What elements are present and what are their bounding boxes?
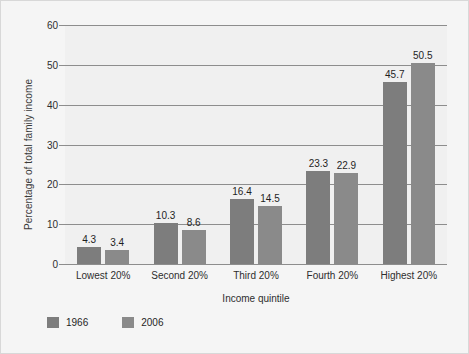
- y-axis-tick-label: 0: [52, 259, 58, 270]
- bar[interactable]: 10.3: [154, 223, 178, 264]
- bar-series-container: 4.33.4Lowest 20%10.38.6Second 20%16.414.…: [65, 25, 447, 264]
- legend-item-series-2[interactable]: 2006: [122, 317, 163, 328]
- y-axis-tick-label: 30: [47, 139, 58, 150]
- bar-value-label: 45.7: [385, 69, 404, 80]
- y-axis-tick-label: 50: [47, 59, 58, 70]
- bar-value-label: 8.6: [187, 217, 201, 228]
- x-axis-category-label: Lowest 20%: [66, 270, 140, 281]
- bar[interactable]: 50.5: [411, 63, 435, 264]
- x-axis-category-label: Fourth 20%: [295, 270, 369, 281]
- bar-value-label: 4.3: [82, 234, 96, 245]
- bar-value-label: 10.3: [156, 210, 175, 221]
- bar-value-label: 50.5: [413, 50, 432, 61]
- bar[interactable]: 23.3: [306, 171, 330, 264]
- chart-legend: 1966 2006: [47, 317, 198, 328]
- y-axis-title: Percentage of total family income: [23, 60, 34, 250]
- bar-group: 23.322.9Fourth 20%: [295, 25, 369, 264]
- chart-figure: Percentage of total family income 010203…: [0, 0, 469, 354]
- bar[interactable]: 4.3: [77, 247, 101, 264]
- x-axis-title: Income quintile: [65, 293, 447, 304]
- bar[interactable]: 22.9: [334, 173, 358, 264]
- legend-swatch-icon: [122, 317, 134, 328]
- bar[interactable]: 14.5: [258, 206, 282, 264]
- legend-label: 2006: [141, 317, 163, 328]
- bar-value-label: 14.5: [260, 193, 279, 204]
- bar-value-label: 3.4: [110, 237, 124, 248]
- bar[interactable]: 16.4: [230, 199, 254, 264]
- y-axis-tick-label: 10: [47, 219, 58, 230]
- legend-swatch-icon: [47, 317, 59, 328]
- bar-group: 45.750.5Highest 20%: [372, 25, 446, 264]
- gridline: [65, 264, 447, 265]
- bar-group: 16.414.5Third 20%: [219, 25, 293, 264]
- bar-group: 10.38.6Second 20%: [143, 25, 217, 264]
- bar-value-label: 16.4: [232, 186, 251, 197]
- legend-label: 1966: [66, 317, 88, 328]
- bar-value-label: 22.9: [337, 160, 356, 171]
- bar[interactable]: 45.7: [383, 82, 407, 264]
- bar[interactable]: 8.6: [182, 230, 206, 264]
- x-axis-category-label: Highest 20%: [372, 270, 446, 281]
- bar[interactable]: 3.4: [105, 250, 129, 264]
- bar-value-label: 23.3: [309, 158, 328, 169]
- y-axis-tick: [59, 264, 65, 265]
- y-axis-tick-label: 60: [47, 20, 58, 31]
- x-axis-category-label: Second 20%: [143, 270, 217, 281]
- y-axis-tick-label: 40: [47, 99, 58, 110]
- legend-item-series-1[interactable]: 1966: [47, 317, 88, 328]
- x-axis-category-label: Third 20%: [219, 270, 293, 281]
- plot-area: 0102030405060 4.33.4Lowest 20%10.38.6Sec…: [65, 25, 447, 264]
- y-axis-tick-label: 20: [47, 179, 58, 190]
- bar-group: 4.33.4Lowest 20%: [66, 25, 140, 264]
